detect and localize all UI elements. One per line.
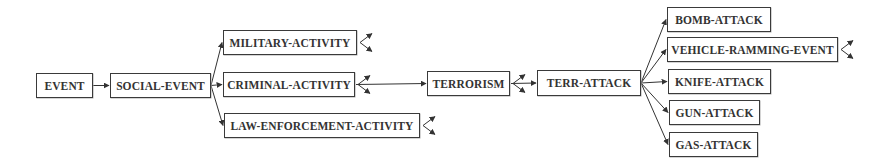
node-criminal-activity[interactable]: CRIMINAL-ACTIVITY [223,72,355,97]
node-military-activity[interactable]: MILITARY-ACTIVITY [223,30,357,55]
node-law-enforcement-activity[interactable]: LAW-ENFORCEMENT-ACTIVITY [224,113,420,138]
edge-terr-attack-to-gun-attack [641,83,668,113]
expand-icon[interactable] [360,34,372,52]
node-knife-attack[interactable]: KNIFE-ATTACK [668,69,771,94]
edge-terr-attack-to-gas-attack [641,83,668,145]
node-vehicle-ramming-event[interactable]: VEHICLE-RAMMING-EVENT [667,37,838,62]
node-gas-attack[interactable]: GAS-ATTACK [669,132,758,157]
edge-terr-attack-to-knife-attack [641,82,667,84]
edge-terr-attack-to-bomb-attack [641,20,666,84]
node-social-event[interactable]: SOCIAL-EVENT [110,73,211,98]
node-gun-attack[interactable]: GUN-ATTACK [669,100,760,125]
edge-social-event-to-criminal-activity [211,85,222,86]
expand-icon[interactable] [423,117,435,135]
node-bomb-attack[interactable]: BOMB-ATTACK [667,7,771,32]
taxonomy-diagram: EVENTSOCIAL-EVENTMILITARY-ACTIVITYCRIMIN… [0,0,884,162]
edge-social-event-to-law-enforcement-activity [211,86,223,126]
node-terrorism[interactable]: TERRORISM [427,71,510,96]
edge-social-event-to-military-activity [211,43,222,86]
expand-icon[interactable] [841,41,853,59]
edge-criminal-activity-to-terrorism [356,84,426,85]
node-terr-attack[interactable]: TERR-ATTACK [537,70,641,96]
edge-terr-attack-to-vehicle-ramming-event [641,50,666,84]
edge-terrorism-to-terr-attack [511,83,536,84]
node-event[interactable]: EVENT [36,73,93,98]
